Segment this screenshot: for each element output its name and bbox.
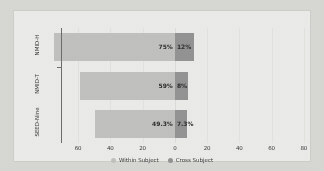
y-axis-category-label: NMID-H [14, 42, 60, 52]
bar-value-label-within-subject: 75% [135, 33, 173, 61]
x-axis-tick-label: 0 [173, 145, 177, 151]
bar-value-label-within-subject: 59% [135, 72, 173, 100]
legend-swatch-icon-cross-subject [168, 158, 173, 163]
plot-area: 75%12%59%8%49.3%7.3% [62, 28, 320, 143]
y-axis-category-label: SEED-Nine [14, 119, 60, 129]
x-axis-tick-label: 20 [139, 145, 146, 151]
legend-label-within-subject: Within Subject [119, 157, 159, 163]
x-axis-tick-label: 20 [204, 145, 211, 151]
bar-value-label-cross-subject: 7.3% [177, 110, 194, 138]
legend-item-cross-subject[interactable]: Cross Subject [168, 157, 213, 163]
bar-value-label-within-subject: 49.3% [135, 110, 173, 138]
chart-card: 75%12%59%8%49.3%7.3% NMID-HNMID-TSEED-Ni… [13, 10, 311, 162]
x-axis-tick-label: 60 [268, 145, 275, 151]
y-axis-category-text: NMID-H [34, 35, 40, 56]
x-axis-tick-labels: 604020020406080 [62, 145, 320, 157]
bar-group: 49.3%7.3% [62, 110, 320, 138]
y-axis-category-text: NMID-T [34, 74, 40, 94]
legend-swatch-icon-within-subject [111, 158, 116, 163]
legend-item-within-subject[interactable]: Within Subject [111, 157, 159, 163]
y-axis-spine [61, 28, 62, 143]
x-axis-tick-label: 60 [75, 145, 82, 151]
bar-value-label-cross-subject: 12% [177, 33, 191, 61]
x-axis-tick-label: 40 [107, 145, 114, 151]
y-axis-category-text: SEED-Nine [34, 107, 40, 136]
chart-legend: Within Subject Cross Subject [14, 157, 310, 163]
legend-label-cross-subject: Cross Subject [176, 157, 213, 163]
bar-group: 75%12% [62, 33, 320, 61]
y-axis-category-label: NMID-T [14, 81, 60, 91]
x-axis-tick-label: 40 [236, 145, 243, 151]
bar-value-label-cross-subject: 8% [177, 72, 187, 100]
x-axis-tick-label: 80 [300, 145, 307, 151]
bar-group: 59%8% [62, 72, 320, 100]
y-axis-tick-labels: NMID-HNMID-TSEED-Nine [14, 28, 60, 143]
chart-figure: 75%12%59%8%49.3%7.3% NMID-HNMID-TSEED-Ni… [0, 0, 324, 171]
